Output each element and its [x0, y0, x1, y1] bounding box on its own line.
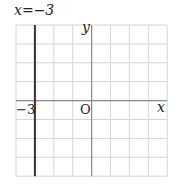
x-axis-label: x	[157, 100, 165, 114]
origin-label: O	[80, 103, 91, 116]
equation-label: x=−3	[14, 3, 54, 17]
coordinate-plane: x=−3 y x O −3	[0, 0, 177, 184]
y-axis-label: y	[82, 20, 90, 34]
tick-label-neg3: −3	[16, 103, 35, 116]
